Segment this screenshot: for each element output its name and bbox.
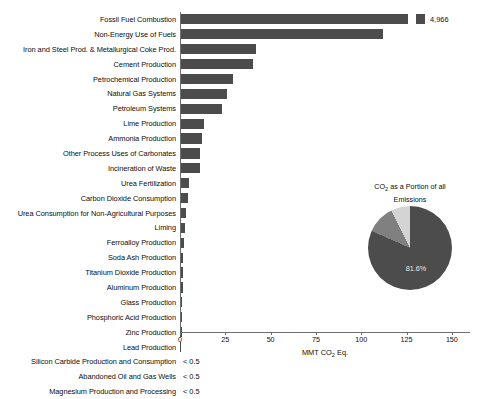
bar-category-label: Liming bbox=[0, 223, 180, 232]
bar-row: Non-Energy Use of Fuels bbox=[0, 27, 481, 42]
bar-row: Cement Production bbox=[0, 57, 481, 72]
pie-chart: CO2 as a Portion of allEmissions 81.6% bbox=[340, 182, 480, 307]
bar bbox=[180, 163, 200, 173]
bar-category-label: Fossil Fuel Combustion bbox=[0, 15, 180, 24]
bar-category-label: Silicon Carbide Production and Consumpti… bbox=[0, 357, 180, 366]
bar-value-label: < 0.5 bbox=[183, 372, 200, 381]
bar bbox=[180, 104, 222, 114]
bar-overflow-marker bbox=[416, 14, 425, 24]
bar-row: Petroleum Systems bbox=[0, 101, 481, 116]
bar-row: Phosphoric Acid Production bbox=[0, 310, 481, 325]
bar-row: Incineration of Waste bbox=[0, 161, 481, 176]
bar-category-label: Non-Energy Use of Fuels bbox=[0, 30, 180, 39]
bar-cell: 4,966 bbox=[180, 12, 481, 27]
bar-category-label: Glass Production bbox=[0, 298, 180, 307]
bar bbox=[180, 89, 227, 99]
pie-chart-title: CO2 as a Portion of allEmissions bbox=[340, 182, 480, 204]
bar-cell bbox=[180, 57, 481, 72]
x-axis-line bbox=[180, 332, 470, 333]
bar-category-label: Ammonia Production bbox=[0, 134, 180, 143]
bar-cell: < 0.5 bbox=[180, 384, 481, 399]
bar bbox=[180, 193, 188, 203]
bar bbox=[180, 44, 256, 54]
pie-value-label-wrap: 81.6% bbox=[368, 206, 452, 290]
bar bbox=[180, 74, 233, 84]
bar-category-label: Carbon Dioxide Consumption bbox=[0, 194, 180, 203]
x-axis-title: MMT CO2 Eq. bbox=[180, 348, 470, 358]
bar-category-label: Titanium Dioxide Production bbox=[0, 268, 180, 277]
bar-category-label: Petrochemical Production bbox=[0, 75, 180, 84]
bar-value-label: 4,966 bbox=[430, 15, 449, 24]
x-axis-tick-label: 0 bbox=[178, 335, 182, 344]
bar bbox=[180, 59, 253, 69]
bar-value-label: < 0.5 bbox=[183, 387, 200, 396]
bar-row: Ammonia Production bbox=[0, 131, 481, 146]
bar-cell bbox=[180, 161, 481, 176]
bar bbox=[180, 29, 383, 39]
bar-category-label: Aluminum Production bbox=[0, 283, 180, 292]
bar-category-label: Urea Consumption for Non-Agricultural Pu… bbox=[0, 209, 180, 218]
bar-category-label: Incineration of Waste bbox=[0, 164, 180, 173]
x-axis-tick-label: 100 bbox=[355, 335, 367, 344]
bar-cell: < 0.5 bbox=[180, 369, 481, 384]
bar-category-label: Other Process Uses of Carbonates bbox=[0, 149, 180, 158]
bar-value-label: < 0.5 bbox=[183, 357, 200, 366]
bar-cell bbox=[180, 72, 481, 87]
bar-category-label: Soda Ash Production bbox=[0, 253, 180, 262]
bar-cell bbox=[180, 42, 481, 57]
bar bbox=[180, 178, 189, 188]
bar-cell bbox=[180, 146, 481, 161]
bar-row: Iron and Steel Prod. & Metallurgical Cok… bbox=[0, 42, 481, 57]
bar-category-label: Abandoned Oil and Gas Wells bbox=[0, 372, 180, 381]
bar-category-label: Natural Gas Systems bbox=[0, 89, 180, 98]
bar-category-label: Zinc Production bbox=[0, 328, 180, 337]
bar-row: Petrochemical Production bbox=[0, 72, 481, 87]
bar-cell bbox=[180, 310, 481, 325]
bar-category-label: Magnesium Production and Processing bbox=[0, 387, 180, 396]
bar-category-label: Lime Production bbox=[0, 119, 180, 128]
x-axis-tick-label: 150 bbox=[446, 335, 458, 344]
bar bbox=[180, 133, 202, 143]
bar-cell bbox=[180, 27, 481, 42]
bar-cell bbox=[180, 86, 481, 101]
bar-row: Magnesium Production and Processing< 0.5 bbox=[0, 384, 481, 399]
bar-row: Natural Gas Systems bbox=[0, 86, 481, 101]
bar-category-label: Phosphoric Acid Production bbox=[0, 313, 180, 322]
bar-category-label: Iron and Steel Prod. & Metallurgical Cok… bbox=[0, 45, 180, 54]
bar-row: Other Process Uses of Carbonates bbox=[0, 146, 481, 161]
bar-category-label: Petroleum Systems bbox=[0, 104, 180, 113]
bar-category-label: Lead Production bbox=[0, 343, 180, 352]
x-axis-tick-label: 50 bbox=[267, 335, 275, 344]
bar-category-label: Ferroalloy Production bbox=[0, 238, 180, 247]
bar-row: Fossil Fuel Combustion4,966 bbox=[0, 12, 481, 27]
bar-row: Abandoned Oil and Gas Wells< 0.5 bbox=[0, 369, 481, 384]
bar-cell bbox=[180, 131, 481, 146]
bar-cell bbox=[180, 116, 481, 131]
bar-cell bbox=[180, 101, 481, 116]
bar bbox=[180, 148, 200, 158]
x-axis-tick-label: 125 bbox=[401, 335, 413, 344]
pie-value-label: 81.6% bbox=[406, 264, 426, 273]
bar bbox=[180, 119, 204, 129]
bar-category-label: Cement Production bbox=[0, 60, 180, 69]
bar-category-label: Urea Fertilization bbox=[0, 179, 180, 188]
x-axis-tick-label: 75 bbox=[312, 335, 320, 344]
bar bbox=[180, 14, 408, 24]
x-axis-tick-label: 25 bbox=[221, 335, 229, 344]
y-axis-line bbox=[180, 12, 181, 332]
bar-row: Lime Production bbox=[0, 116, 481, 131]
